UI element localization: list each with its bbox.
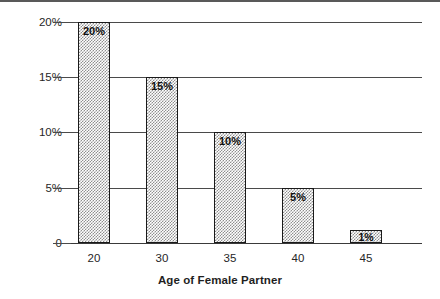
y-tick-mark-0 [53,243,71,244]
bar-series: 20% 15% 10% 5% 1% [71,22,422,243]
y-tick-mark-10 [53,132,71,133]
bar-chart-figure: 20% 15% 10% 5% 0 20% 15% 10% 5% [0,0,440,299]
bar-value-label-35: 10% [215,135,245,147]
plot-area: 20% 15% 10% 5% 1% [71,22,422,243]
x-tick-label-20: 20 [64,252,124,265]
page-top-rule [0,0,440,2]
x-tick-label-30: 30 [132,252,192,265]
x-tick-label-35: 35 [200,252,260,265]
bar-age-30: 15% [146,77,178,243]
bar-age-20: 20% [78,22,110,243]
y-tick-mark-5 [53,188,71,189]
x-tick-label-40: 40 [268,252,328,265]
bar-value-label-45: 1% [351,231,381,243]
x-tick-label-45: 45 [336,252,396,265]
y-tick-mark-20 [53,22,71,23]
bar-age-45: 1% [350,230,382,243]
bar-value-label-20: 20% [79,25,109,37]
x-axis-baseline [71,243,422,244]
bar-age-40: 5% [282,188,314,243]
bar-age-35: 10% [214,132,246,243]
bar-value-label-30: 15% [147,80,177,92]
bar-value-label-40: 5% [283,191,313,203]
x-axis-title: Age of Female Partner [0,274,440,286]
y-tick-mark-15 [53,77,71,78]
